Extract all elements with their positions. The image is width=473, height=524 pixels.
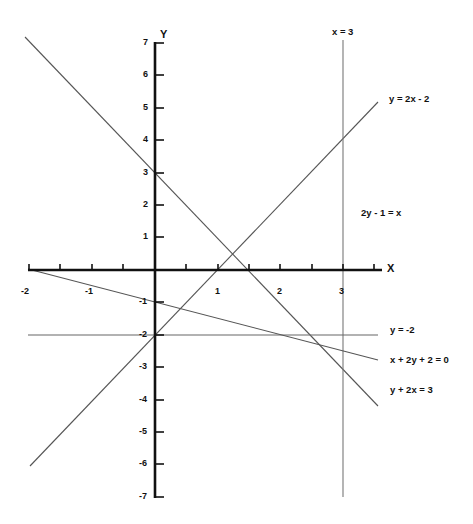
x-tick-label--2: -2: [21, 287, 29, 296]
y-tick-label--5: -5: [139, 427, 147, 436]
equation-label-x-plus-2y-plus-2-equals-0: x + 2y + 2 = 0: [390, 355, 449, 365]
axes: [28, 42, 382, 498]
plot-lines: [25, 37, 378, 497]
graph-canvas: [0, 0, 473, 524]
y-tick-label--2: -2: [139, 330, 147, 339]
y-tick-label--6: -6: [139, 459, 147, 468]
y-tick-label-1: 1: [143, 232, 148, 241]
coordinate-graph: Y X -2 -1 1 2 3 7 6 5 4 3 2 1 -1 -2 -3 -…: [0, 0, 473, 524]
y-tick-label-7: 7: [143, 38, 148, 47]
y-tick-label--4: -4: [139, 395, 147, 404]
y-tick-label--3: -3: [139, 362, 147, 371]
line-y-plus-2x-equals-3: [25, 37, 378, 406]
equation-label-x-equals-3: x = 3: [332, 27, 353, 37]
x-tick-label-1: 1: [215, 287, 220, 296]
y-tick-label--1: -1: [139, 297, 147, 306]
equation-label-y-equals-minus-2: y = -2: [390, 325, 415, 335]
y-tick-label-6: 6: [143, 70, 148, 79]
equation-label-y-equals-2x-minus-2: y = 2x - 2: [389, 94, 429, 104]
x-axis-label: X: [387, 263, 394, 274]
equation-label-2y-minus-1-equals-x: 2y - 1 = x: [361, 208, 401, 218]
x-tick-label-3: 3: [339, 287, 344, 296]
y-tick-label-5: 5: [143, 103, 148, 112]
y-tick-label-2: 2: [143, 200, 148, 209]
y-tick-label-4: 4: [143, 135, 148, 144]
x-tick-label--1: -1: [85, 287, 93, 296]
x-tick-label-2: 2: [277, 287, 282, 296]
line-y-equals-2x-minus-2: [30, 102, 378, 466]
y-tick-label--7: -7: [139, 492, 147, 501]
y-tick-label-3: 3: [143, 168, 148, 177]
y-axis-label: Y: [160, 29, 167, 40]
line-x-plus-2y-plus-2-equals-0: [28, 269, 378, 360]
equation-label-y-plus-2x-equals-3: y + 2x = 3: [390, 385, 433, 395]
